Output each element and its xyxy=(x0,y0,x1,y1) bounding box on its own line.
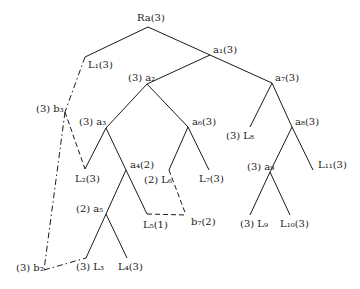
node-label-a2: (3) a₂ xyxy=(128,73,155,83)
node-label-l10: L₁₀(3) xyxy=(280,219,309,229)
edge-a3-a4 xyxy=(106,128,126,170)
node-label-a3: (3) a₃ xyxy=(79,117,106,127)
edge-a2-a3 xyxy=(106,84,147,128)
node-label-l7: L₇(3) xyxy=(199,174,224,184)
edge-a7-a8 xyxy=(272,83,292,127)
node-label-a6: a₆(3) xyxy=(192,117,216,127)
node-label-l5: L₅(1) xyxy=(143,220,168,230)
edge-Ra-a1 xyxy=(148,27,210,55)
node-label-l2: L₂(3) xyxy=(75,174,100,184)
node-label-a1: a₁(3) xyxy=(213,45,237,55)
edge-L1-b3 xyxy=(65,57,85,112)
tree-edges xyxy=(44,27,313,270)
node-label-l1: L₁(3) xyxy=(88,60,113,70)
edge-a8-L11 xyxy=(292,127,313,170)
edge-a2-a6 xyxy=(147,84,188,127)
edge-a9-L9 xyxy=(250,172,270,215)
tree-diagram xyxy=(0,0,360,289)
node-label-a8: a₈(3) xyxy=(295,117,319,127)
edge-b3-b2 xyxy=(44,112,65,270)
edge-a7-L8 xyxy=(250,83,272,127)
edge-L5-b7 xyxy=(147,214,186,215)
node-label-l11: L₁₁(3) xyxy=(318,160,347,170)
edge-a1-a2 xyxy=(147,55,210,84)
edge-a6-L6 xyxy=(169,127,188,170)
node-label-b3: (3) b₃ xyxy=(36,104,64,114)
node-label-l8: (3) L₈ xyxy=(226,131,254,141)
edge-a3-L2 xyxy=(85,128,106,169)
node-label-l4: L₄(3) xyxy=(118,262,143,272)
node-label-l3: (3) L₃ xyxy=(76,262,104,272)
node-label-a5: (2) a₅ xyxy=(76,204,103,214)
node-label-ra: Ra(3) xyxy=(137,13,165,23)
edge-Ra-L1 xyxy=(85,27,148,57)
node-label-b7: b₇(2) xyxy=(191,217,216,227)
node-label-a9: (3) a₉ xyxy=(247,162,274,172)
edge-a5-L3 xyxy=(86,214,106,258)
node-label-b2: (3) b₂ xyxy=(16,263,44,273)
node-label-a7: a₇(3) xyxy=(275,73,299,83)
node-label-l9: (3) L₉ xyxy=(240,219,268,229)
edge-a5-L4 xyxy=(106,214,127,258)
node-label-a4: a₄(2) xyxy=(130,160,154,170)
node-label-l6: (2) L₆ xyxy=(144,175,172,185)
edge-a9-L10 xyxy=(270,172,290,215)
edge-a4-a5 xyxy=(106,170,126,214)
edge-a1-a7 xyxy=(210,55,272,83)
edge-a6-L7 xyxy=(188,127,209,170)
